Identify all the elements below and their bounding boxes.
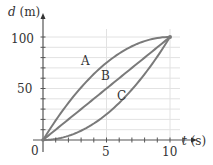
tick-label-origin: 0 [31,144,39,158]
y-axis-title: d (m) [8,5,40,19]
x-axis-title: t (s) [182,134,206,148]
tick-label-y100: 100 [11,32,34,46]
curve-label-c: C [117,89,126,103]
y-axis-arrow-icon [41,13,46,19]
distance-time-chart: d (m) t (s) 0 5 10 50 100 A B C [0,0,213,165]
origin-marker [41,138,45,142]
endpoint-marker [168,35,172,39]
tick-label-x5: 5 [102,145,110,159]
tick-marks [41,37,183,143]
tick-label-x10: 10 [162,145,177,159]
curve-label-a: A [80,54,90,68]
curve-label-b: B [101,69,110,83]
tick-label-y50: 50 [17,82,32,96]
